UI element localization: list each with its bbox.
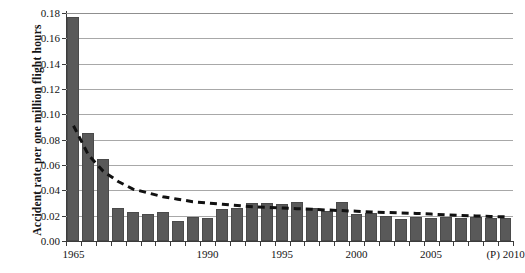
y-axis-tick-label: 0.10 [41,109,60,120]
x-axis-tick [245,241,246,246]
y-axis-tick-label: 0.02 [41,210,60,221]
x-axis-tick [81,241,82,246]
y-axis-tick [62,190,66,191]
x-axis-tick [111,241,112,246]
bar [351,214,363,241]
bar [157,212,169,241]
x-axis-tick [155,241,156,246]
x-axis-tick [275,241,276,246]
bar [127,212,139,241]
x-axis-tick [424,241,425,246]
y-axis-tick-label: 0.12 [41,84,60,95]
bar [455,218,467,241]
y-axis-tick-label: 0.00 [41,236,60,247]
x-axis-tick [439,241,440,246]
x-axis-tick [394,241,395,246]
gridline [66,38,513,39]
x-axis-tick [319,241,320,246]
x-axis-tick-label: 2000 [346,248,368,260]
gridline [66,165,513,166]
gridline [66,140,513,141]
plot-area: 0.000.020.040.060.080.100.120.140.160.18 [66,13,513,241]
x-axis-tick-label: 1990 [197,248,219,260]
x-axis-tick [141,241,142,246]
gridline [66,64,513,65]
bar [485,218,497,241]
gridline [66,13,513,14]
y-axis-tick [62,89,66,90]
bar [425,218,437,241]
bar [395,219,407,241]
y-axis-tick [62,38,66,39]
bar [187,217,199,241]
x-axis-tick [334,241,335,246]
x-axis-tick [513,241,514,246]
bar [291,202,303,241]
x-axis-tick [96,241,97,246]
y-axis-tick [62,13,66,14]
bar [276,204,288,241]
bar [246,203,258,241]
x-axis-tick-label: 2005 [420,248,442,260]
x-axis-tick [126,241,127,246]
bar [67,17,79,241]
bar [410,217,422,241]
y-axis-tick [62,165,66,166]
bar [365,213,377,241]
bar [112,208,124,241]
x-axis-tick-label: (P) 2010 [486,248,524,260]
y-axis-tick [62,216,66,217]
x-axis-tick [349,241,350,246]
gridline [66,190,513,191]
bar [231,208,243,241]
y-axis-tick [62,114,66,115]
bar [380,216,392,241]
x-axis-tick [260,241,261,246]
bar [172,221,184,241]
y-axis-tick [62,64,66,65]
bar [470,217,482,241]
x-axis-tick [215,241,216,246]
x-axis-tick [468,241,469,246]
x-axis-tick [230,241,231,246]
x-axis-tick [409,241,410,246]
y-axis-tick-label: 0.04 [41,185,60,196]
x-axis-tick [290,241,291,246]
x-axis-tick [364,241,365,246]
gridline [66,89,513,90]
y-axis-tick [62,140,66,141]
bar [82,133,94,241]
y-axis-tick-label: 0.18 [41,8,60,19]
bar [216,209,228,241]
bar [321,211,333,241]
y-axis-tick-label: 0.06 [41,160,60,171]
y-axis-title-container: Accident rate per one million flight hou… [0,0,34,255]
x-axis-tick [453,241,454,246]
x-axis-tick [200,241,201,246]
bar [202,218,214,241]
x-axis-tick [185,241,186,246]
gridline [66,114,513,115]
y-axis-tick-label: 0.08 [41,134,60,145]
bar [142,214,154,241]
x-axis-tick [379,241,380,246]
y-axis-tick-label: 0.14 [41,58,60,69]
bar [336,202,348,241]
bar [261,203,273,241]
x-axis-tick-label: 1965 [62,248,84,260]
x-axis-tick [304,241,305,246]
bar [440,217,452,241]
bar [500,218,512,241]
y-axis-tick-label: 0.16 [41,33,60,44]
x-axis-tick [66,241,67,246]
bar [97,159,109,241]
bar [306,208,318,241]
x-axis-tick [483,241,484,246]
x-axis-tick [498,241,499,246]
x-axis-tick [170,241,171,246]
x-axis-tick-label: 1995 [271,248,293,260]
